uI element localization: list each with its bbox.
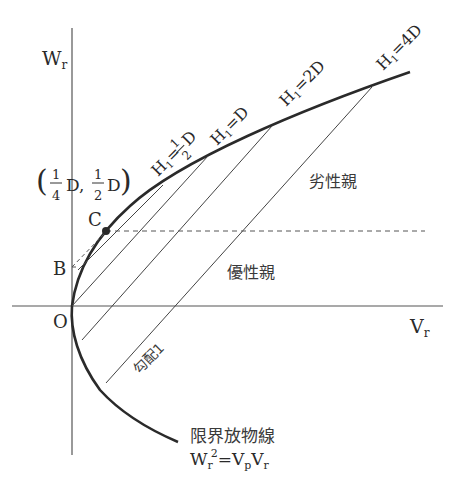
slope-1-label: 勾配1 bbox=[130, 340, 167, 377]
vr-axis-label: Vr bbox=[409, 315, 430, 340]
label-h1-2d: H1=2D bbox=[275, 56, 329, 110]
label-h1-half-d: H1= 1 2 D bbox=[145, 124, 206, 185]
wr-axis-label: Wr bbox=[42, 47, 68, 72]
recessive-parent-label: 劣性親 bbox=[309, 172, 357, 191]
svg-text:(: ( bbox=[36, 163, 48, 198]
svg-text:H1=: H1= bbox=[147, 143, 185, 181]
dominant-parent-label: 優性親 bbox=[227, 263, 275, 282]
svg-text:2: 2 bbox=[94, 188, 102, 203]
svg-text:): ) bbox=[120, 163, 132, 198]
svg-text:D,: D, bbox=[66, 175, 84, 195]
wr-vr-diagram: Wr Vr O B C ( 1 4 D, 1 2 D ) H1= 1 2 D H… bbox=[0, 0, 465, 494]
origin-label: O bbox=[53, 311, 68, 332]
svg-text:H1=D: H1=D bbox=[206, 102, 253, 149]
limit-parabola-label: 限界放物線 bbox=[190, 426, 275, 446]
point-c-label: C bbox=[88, 209, 102, 230]
label-h1-4d: H1=4D bbox=[372, 20, 426, 74]
parabola-equation: Wr2=VpVr bbox=[190, 447, 270, 472]
point-c-marker bbox=[102, 227, 110, 235]
point-c-coordinate-label: ( 1 4 D, 1 2 D ) bbox=[36, 163, 132, 203]
line-h1-4d bbox=[106, 87, 372, 383]
svg-text:D: D bbox=[107, 175, 121, 195]
point-b-label: B bbox=[53, 258, 66, 279]
svg-text:2: 2 bbox=[179, 148, 194, 163]
svg-text:H1=2D: H1=2D bbox=[275, 56, 329, 110]
svg-text:1: 1 bbox=[94, 167, 102, 182]
svg-text:1: 1 bbox=[52, 167, 60, 182]
svg-text:4: 4 bbox=[52, 188, 60, 203]
svg-text:H1=4D: H1=4D bbox=[372, 20, 426, 74]
label-h1-d: H1=D bbox=[206, 102, 253, 149]
